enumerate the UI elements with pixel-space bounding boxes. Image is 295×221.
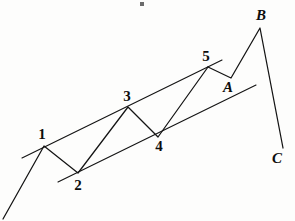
elliott-wave-diagram: 12345ABC	[0, 0, 295, 221]
wave-label-2: 2	[74, 177, 82, 193]
corrective-wave-line	[208, 28, 283, 148]
ink-speck-layer	[140, 2, 144, 6]
wave-label-layer: 12345ABC	[38, 7, 283, 193]
wave-label-a: A	[222, 79, 233, 95]
wave-chart-canvas: 12345ABC	[0, 0, 295, 221]
wave-label-b: B	[255, 7, 266, 23]
impulse-wave-line	[3, 67, 208, 219]
ink-speck	[140, 2, 144, 6]
impulse-wave-group	[3, 67, 208, 219]
upper-trend-channel-line	[22, 60, 222, 158]
wave-label-3: 3	[123, 88, 131, 104]
wave-label-5: 5	[202, 48, 210, 64]
trend-channel-group	[22, 60, 256, 182]
wave-label-1: 1	[38, 126, 46, 142]
corrective-wave-group	[208, 28, 283, 148]
lower-trend-channel-line	[58, 85, 256, 182]
wave-label-c: C	[272, 150, 283, 166]
wave-label-4: 4	[155, 138, 163, 154]
